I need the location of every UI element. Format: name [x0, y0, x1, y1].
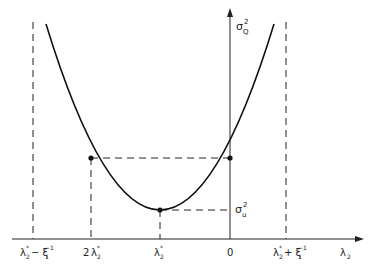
y-axis-label: σ Q 2: [236, 18, 249, 36]
svg-text:2: 2: [97, 253, 101, 260]
min-label: σ u 2: [235, 201, 247, 219]
svg-text:2: 2: [26, 253, 30, 260]
svg-text:2: 2: [83, 247, 89, 258]
svg-text:σ: σ: [235, 203, 242, 216]
tick-left-bound: λ * 2 − ξ 1 −1: [20, 244, 54, 260]
svg-text:*: *: [26, 244, 29, 251]
svg-text:2: 2: [160, 253, 164, 260]
point-two-lambda: [88, 155, 93, 160]
parabola-curve: [46, 24, 274, 210]
svg-text:−1: −1: [298, 244, 307, 251]
tick-two-lambda: 2 λ * 2: [83, 244, 101, 260]
point-minimum: [157, 207, 162, 212]
svg-text:−1: −1: [45, 244, 54, 251]
tick-right-bound: λ * 2 + ξ 1 −1: [273, 244, 307, 260]
svg-text:1: 1: [298, 253, 302, 260]
tick-zero: 0: [227, 247, 233, 258]
svg-text:σ: σ: [236, 20, 243, 33]
x-axis-arrow-icon: [355, 236, 364, 242]
svg-text:2: 2: [244, 18, 248, 26]
variance-diagram: σ Q 2 σ u 2 λ * 2 − ξ 1 −1 2 λ * 2 λ * 2…: [0, 0, 374, 271]
svg-text:2: 2: [347, 253, 351, 260]
svg-text:*: *: [160, 244, 163, 251]
svg-text:2: 2: [279, 253, 283, 260]
svg-text:0: 0: [227, 247, 233, 258]
svg-text:*: *: [97, 244, 100, 251]
svg-text:λ: λ: [340, 247, 346, 258]
svg-text:u: u: [242, 211, 246, 219]
tick-lambda-star: λ * 2: [154, 244, 164, 260]
svg-text:1: 1: [45, 253, 49, 260]
svg-text:*: *: [279, 244, 282, 251]
svg-text:Q: Q: [243, 28, 249, 36]
y-axis-arrow-icon: [227, 8, 233, 17]
x-axis-label: λ 2: [340, 247, 351, 260]
svg-text:2: 2: [243, 201, 247, 209]
point-intercept: [227, 155, 232, 160]
